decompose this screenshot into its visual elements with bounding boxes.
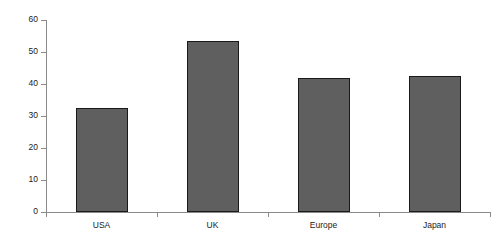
x-axis-tick bbox=[46, 212, 47, 217]
y-axis-tick bbox=[41, 52, 46, 53]
y-axis-tick-label: 20 bbox=[4, 143, 38, 152]
y-axis-tick-label: 50 bbox=[4, 47, 38, 56]
bar bbox=[409, 76, 461, 212]
x-axis-category-label: USA bbox=[46, 221, 157, 230]
x-axis-tick bbox=[490, 212, 491, 217]
x-axis-category-label: Europe bbox=[268, 221, 379, 230]
y-axis-tick-label: 60 bbox=[4, 15, 38, 24]
y-axis-tick-label: 40 bbox=[4, 79, 38, 88]
y-axis-tick-label-wrap: 30 bbox=[0, 111, 38, 121]
bar bbox=[298, 78, 350, 212]
y-axis-tick-label: 30 bbox=[4, 111, 38, 120]
bar bbox=[187, 41, 239, 212]
y-axis-tick-label-wrap: 20 bbox=[0, 143, 38, 153]
x-axis-category-label: Japan bbox=[379, 221, 490, 230]
y-axis-tick-label-wrap: 10 bbox=[0, 175, 38, 185]
bar-chart: 0102030405060 USAUKEuropeJapan bbox=[0, 0, 501, 246]
x-axis-tick bbox=[379, 212, 380, 217]
y-axis-line bbox=[46, 20, 47, 213]
y-axis-tick-label-wrap: 50 bbox=[0, 47, 38, 57]
y-axis-tick bbox=[41, 116, 46, 117]
y-axis-tick bbox=[41, 180, 46, 181]
y-axis-tick-label-wrap: 40 bbox=[0, 79, 38, 89]
plot-area: 0102030405060 USAUKEuropeJapan bbox=[0, 0, 501, 246]
y-axis-tick bbox=[41, 84, 46, 85]
y-axis-tick-label-wrap: 0 bbox=[0, 207, 38, 217]
y-axis-tick-label-wrap: 60 bbox=[0, 15, 38, 25]
y-axis-tick bbox=[41, 148, 46, 149]
bar bbox=[76, 108, 128, 212]
y-axis-tick-label: 10 bbox=[4, 175, 38, 184]
x-axis-category-label: UK bbox=[157, 221, 268, 230]
x-axis-tick bbox=[157, 212, 158, 217]
x-axis-tick bbox=[268, 212, 269, 217]
y-axis-tick bbox=[41, 20, 46, 21]
y-axis-tick-label: 0 bbox=[4, 207, 38, 216]
